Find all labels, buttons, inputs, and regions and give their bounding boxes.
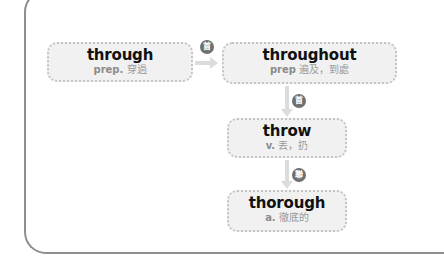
- def-through: prep. 穿過: [49, 64, 191, 76]
- word-throughout: throughout: [224, 47, 395, 64]
- arrowhead-down: [281, 109, 293, 117]
- badge-prefix-icon: 首: [200, 40, 214, 54]
- node-thorough: thorough a. 徹底的: [227, 190, 347, 232]
- word-throw: throw: [229, 123, 345, 140]
- def-throughout: prep 遍及，到處: [224, 64, 395, 76]
- arrow-throughout-throw: [285, 86, 289, 110]
- node-through: through prep. 穿過: [47, 42, 193, 82]
- word-through: through: [49, 47, 191, 64]
- arrowhead-right: [210, 57, 218, 69]
- def-throw: v. 丟，扔: [229, 140, 345, 152]
- node-throughout: throughout prep 遍及，到處: [222, 42, 397, 84]
- arrow-through-throughout: [195, 61, 211, 65]
- word-thorough: thorough: [229, 195, 345, 212]
- arrow-throw-thorough: [285, 160, 289, 182]
- def-thorough: a. 徹底的: [229, 212, 345, 224]
- node-throw: throw v. 丟，扔: [227, 118, 347, 158]
- arrowhead-down: [281, 181, 293, 189]
- badge-prefix-icon: 首: [292, 94, 306, 108]
- badge-link-icon: 聯: [292, 168, 306, 182]
